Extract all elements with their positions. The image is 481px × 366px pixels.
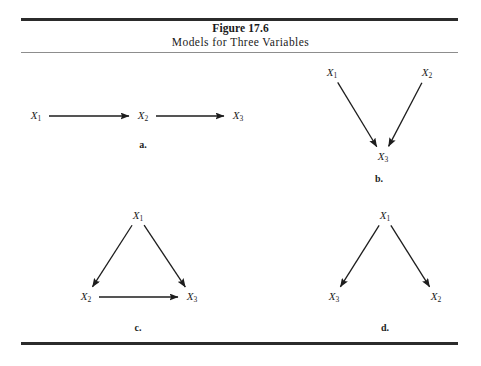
diagram-canvas <box>0 0 481 366</box>
figure-page: Figure 17.6 Models for Three Variables X… <box>0 0 481 366</box>
edge-c-X1-to-X2 <box>92 225 132 287</box>
node-c-X2: X2 <box>81 290 91 304</box>
bottom-rule <box>21 342 458 345</box>
node-d-X2: X2 <box>431 290 441 304</box>
node-a-X1: X1 <box>31 109 41 123</box>
node-b-X1: X1 <box>327 66 337 80</box>
panel-label-a: a. <box>139 139 147 150</box>
node-b-X2: X2 <box>422 66 432 80</box>
node-c-X3: X3 <box>187 290 197 304</box>
panel-label-c: c. <box>135 322 142 333</box>
edge-c-X1-to-X3 <box>144 225 185 287</box>
node-d-X3: X3 <box>329 290 339 304</box>
node-a-X3: X3 <box>233 109 243 123</box>
panel-label-d: d. <box>381 322 389 333</box>
panel-label-b: b. <box>375 173 383 184</box>
edge-b-X2-to-X3 <box>389 83 422 147</box>
edge-b-X1-to-X3 <box>338 82 377 146</box>
node-d-X1: X1 <box>380 209 390 223</box>
node-a-X2: X2 <box>138 109 148 123</box>
node-b-X3: X3 <box>378 150 388 164</box>
edge-d-X1-to-X3 <box>340 225 379 287</box>
node-c-X1: X1 <box>133 209 143 223</box>
edge-d-X1-to-X2 <box>391 225 430 287</box>
